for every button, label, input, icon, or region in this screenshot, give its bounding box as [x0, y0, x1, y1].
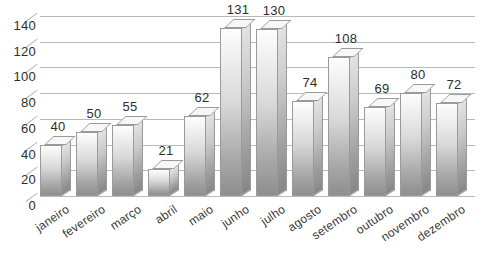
bar[interactable]: 74 — [292, 101, 323, 196]
bar-side-face — [350, 51, 359, 196]
bar-front-face — [436, 103, 458, 196]
bar-side-face — [278, 23, 287, 196]
bar-front-face — [40, 145, 62, 196]
bar-side-face — [206, 110, 215, 196]
bar[interactable]: 21 — [148, 169, 179, 196]
bar-value-label: 55 — [107, 99, 153, 114]
bar-value-label: 21 — [143, 143, 189, 158]
bar-side-face — [386, 101, 395, 196]
bar-front-face — [364, 107, 386, 196]
bar-side-face — [458, 98, 467, 196]
bar-side-face — [134, 119, 143, 196]
bar-side-face — [62, 139, 71, 196]
bar[interactable]: 80 — [400, 93, 431, 196]
bar-front-face — [400, 93, 422, 196]
bar-front-face — [220, 28, 242, 196]
bar-front-face — [328, 57, 350, 196]
bar[interactable]: 108 — [328, 57, 359, 196]
bar[interactable]: 50 — [76, 132, 107, 196]
bar-front-face — [184, 116, 206, 196]
bar-front-face — [292, 101, 314, 196]
bar-value-label: 40 — [35, 119, 81, 134]
bar-chart: 020406080100120140 405055216213113074108… — [0, 0, 486, 266]
bar[interactable]: 69 — [364, 107, 395, 196]
bar-value-label: 69 — [359, 81, 405, 96]
bar[interactable]: 55 — [112, 125, 143, 196]
bar[interactable]: 72 — [436, 103, 467, 196]
bar[interactable]: 62 — [184, 116, 215, 196]
bar-side-face — [422, 87, 431, 196]
bar-value-label: 108 — [323, 31, 369, 46]
bar-side-face — [98, 126, 107, 196]
bar-front-face — [256, 29, 278, 196]
bar-value-label: 72 — [431, 77, 477, 92]
bar-front-face — [148, 169, 170, 196]
bar-side-face — [242, 22, 251, 196]
bar-value-label: 130 — [251, 3, 297, 18]
bar-value-label: 62 — [179, 90, 225, 105]
bar-front-face — [112, 125, 134, 196]
bar-value-label: 74 — [287, 75, 333, 90]
bar-front-face — [76, 132, 98, 196]
bar[interactable]: 131 — [220, 28, 251, 196]
bar[interactable]: 40 — [40, 145, 71, 196]
bar-side-face — [314, 95, 323, 196]
bar[interactable]: 130 — [256, 29, 287, 196]
